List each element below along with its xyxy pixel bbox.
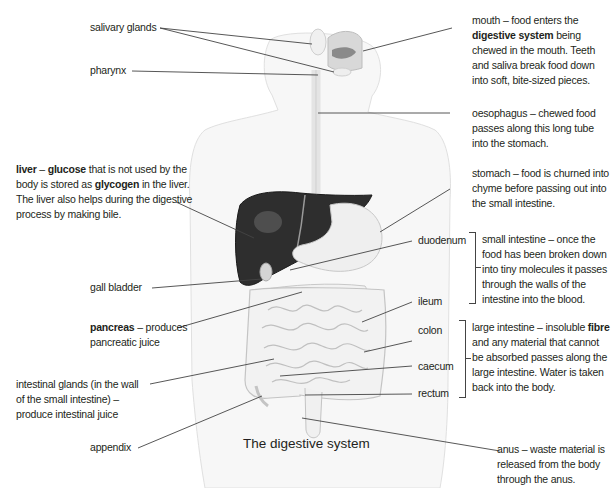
label-ileum: ileum	[418, 294, 442, 309]
label-intestinal-glands: intestinal glands (in the wall of the sm…	[16, 377, 146, 422]
small-intestine-bracket-tick	[476, 267, 481, 268]
large-intestine-bracket	[459, 320, 466, 398]
large-intestine-bracket-tick	[466, 358, 471, 359]
pancreas-term: pancreas	[90, 321, 135, 333]
label-rectum: rectum	[418, 386, 449, 401]
label-salivary-glands: salivary glands	[90, 20, 156, 35]
label-appendix: appendix	[90, 440, 131, 455]
glucose-term: glucose	[48, 163, 86, 175]
label-large-intestine: large intestine – insoluble fibre and an…	[472, 320, 612, 395]
label-oesophagus: oesophagus – chewed food passes along th…	[472, 106, 607, 151]
digestive-system-term: digestive system	[472, 29, 553, 41]
gall-bladder	[260, 263, 272, 281]
rectum	[305, 388, 322, 438]
liver-term: liver	[16, 163, 37, 175]
label-pancreas: pancreas – produces pancreatic juice	[90, 320, 190, 350]
glycogen-term: glycogen	[95, 178, 140, 190]
label-mouth: mouth – food enters the digestive system…	[472, 13, 612, 88]
label-duodenum: duodenum	[418, 233, 466, 248]
label-caecum: caecum	[418, 359, 454, 374]
label-anus: anus – waste material is released from t…	[497, 442, 612, 487]
diagram-title: The digestive system	[243, 436, 370, 451]
label-stomach: stomach – food is churned into chyme bef…	[472, 166, 612, 211]
label-liver: liver – glucose that is not used by the …	[16, 162, 196, 222]
fibre-term: fibre	[588, 321, 610, 333]
small-intestine-bracket	[469, 232, 476, 304]
label-small-intestine: small intestine – once the food has been…	[482, 232, 612, 307]
label-pharynx: pharynx	[90, 63, 126, 78]
label-gall-bladder: gall bladder	[90, 280, 142, 295]
label-colon: colon	[418, 323, 442, 338]
